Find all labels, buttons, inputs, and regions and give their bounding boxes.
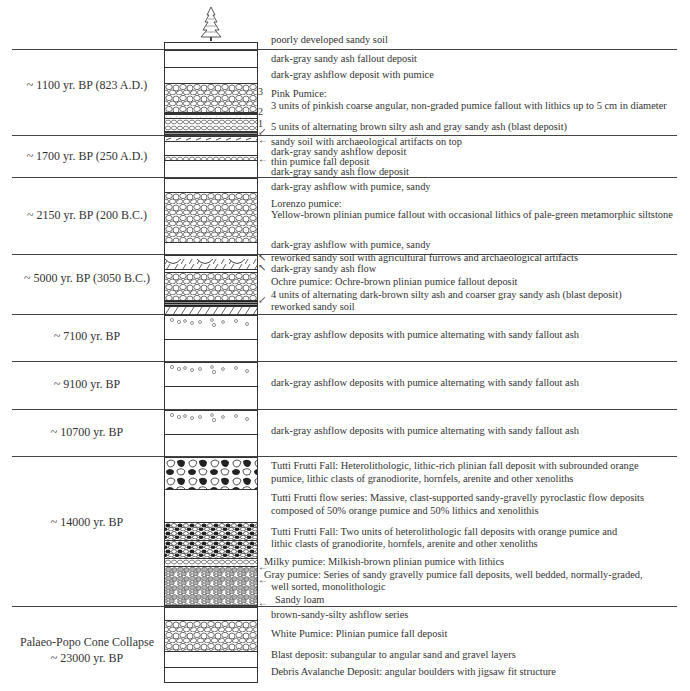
- arrow-icon: ↙: [258, 294, 266, 305]
- section-divider: [12, 49, 677, 50]
- age-label-1100: ~ 1100 yr. BP (823 A.D.): [12, 78, 162, 92]
- age-label-1700: ~ 1700 yr. BP (250 A.D.): [12, 149, 162, 163]
- layer-description: 4 units of alternating dark-brown silty …: [271, 289, 622, 301]
- layer-pink-pumice-1: [165, 118, 257, 131]
- layer-description: Sandy loam: [275, 594, 324, 606]
- layer-tutti-frutti-two-units-b: [165, 540, 257, 558]
- layer-description: Blast deposit: subangular to angular san…: [271, 649, 516, 661]
- layer-description: dark-gray sandy ash flow deposit: [271, 166, 409, 178]
- layer-sandy-fallout-10700: [165, 434, 257, 457]
- layer-tutti-frutti-two-units-a: [165, 522, 257, 540]
- layer-pink-pumice-3: [165, 83, 257, 112]
- arrow-icon: ←: [258, 597, 268, 608]
- layer-description: well sorted, monolithologic: [271, 581, 386, 593]
- arrow-icon: ←: [258, 134, 268, 145]
- layer-sandy-ash-flow: [165, 160, 257, 178]
- layer-description: Tutti Frutti Fall: Heterolithologic, lit…: [271, 460, 639, 472]
- layer-description: dark-gray sandy ash fallout deposit: [271, 53, 417, 65]
- layer-description: dark-gray ashflow deposits with pumice a…: [271, 425, 579, 437]
- layer-description: dark-gray ashflow with pumice, sandy: [271, 239, 431, 251]
- age-label-10700: ~ 10700 yr. BP: [12, 425, 162, 439]
- layer-description: Debris Avalanche Deposit: angular boulde…: [271, 666, 556, 678]
- layer-reworked-sandy-soil: [165, 306, 257, 315]
- layer-description: brown-sandy-silty ashflow series: [271, 609, 408, 621]
- layer-description: pumice, lithic clasts of granodiorite, h…: [271, 473, 573, 485]
- layer-gray-pumice: [165, 566, 257, 605]
- unit-marker-3: 3: [258, 86, 263, 97]
- layer-description: Tutti Frutti flow series: Massive, clast…: [271, 492, 644, 504]
- layer-sandy-fallout-7100: [165, 339, 257, 362]
- age-label-23000: ~ 23000 yr. BP: [12, 651, 162, 665]
- age-label-23000-title: Palaeo-Popo Cone Collapse: [12, 635, 162, 649]
- layer-reworked-soil-furrows: [165, 255, 257, 269]
- layer-debris-avalanche: [165, 667, 257, 682]
- layer-description: dark-gray ashflow deposit with pumice: [271, 69, 434, 81]
- layer-description: dark-gray sandy ash flow: [271, 263, 376, 275]
- layer-description: Milky pumice: Milkish-brown plinian pumi…: [264, 556, 504, 568]
- layer-tutti-frutti-flow: [165, 489, 257, 522]
- pine-tree-icon: [200, 6, 222, 42]
- age-label-14000: ~ 14000 yr. BP: [12, 515, 162, 529]
- layer-description: Pink Pumice:: [271, 88, 327, 100]
- layer-lorenzo-pumice: [165, 192, 257, 242]
- top-soil-label: poorly developed sandy soil: [271, 34, 388, 46]
- layer-description: lithic clasts of granodiorite, hornfels,…: [271, 538, 538, 550]
- arrow-icon: ←: [258, 153, 268, 164]
- layer-description: Gray pumice: Series of sandy gravelly pu…: [264, 569, 643, 581]
- layer-brown-sandy-silty-ashflow: [165, 607, 257, 620]
- layer-description: Tutti Frutti Fall: Two units of heteroli…: [271, 526, 617, 538]
- section-divider: [12, 314, 677, 315]
- layer-description: reworked sandy soil: [271, 301, 355, 313]
- layer-ashflow-pumice-7100: [165, 315, 257, 339]
- layer-sandy-fallout-9100: [165, 386, 257, 410]
- age-label-2150: ~ 2150 yr. BP (200 B.C.): [12, 208, 162, 222]
- layer-description: Yellow-brown plinian pumice fallout with…: [271, 209, 673, 221]
- age-label-7100: ~ 7100 yr. BP: [12, 329, 162, 343]
- layer-blast-deposit-23000: [165, 651, 257, 667]
- section-divider: [12, 409, 677, 410]
- layer-description: Ochre pumice: Ochre-brown plinian pumice…: [271, 276, 517, 288]
- layer-description: dark-gray ashflow with pumice, sandy: [271, 181, 431, 193]
- layer-ashflow-pumice-sandy-bottom: [165, 242, 257, 255]
- layer-sandy-ash-fallout: [165, 50, 257, 67]
- layer-ochre-pumice: [165, 272, 257, 300]
- stratigraphic-column: [164, 42, 258, 683]
- section-divider: [12, 606, 677, 607]
- layer-description: dark-gray ashflow deposits with pumice a…: [271, 377, 579, 389]
- layer-ashflow-pumice-sandy-top: [165, 178, 257, 192]
- layer-description: 5 units of alternating brown silty ash a…: [271, 121, 567, 133]
- unit-marker-2: 2: [258, 106, 263, 117]
- layer-description: dark-gray ashflow deposits with pumice a…: [271, 329, 579, 341]
- layer-milky-pumice: [165, 558, 257, 566]
- layer-description: White Pumice: Plinian pumice fall deposi…: [271, 628, 447, 640]
- layer-description: 3 units of pinkish coarse angular, non-g…: [271, 100, 667, 112]
- layer-description: composed of 50% orange pumice and 50% li…: [271, 505, 539, 517]
- section-divider: [12, 361, 677, 362]
- layer-tutti-frutti-fall: [165, 457, 257, 489]
- layer-sandy-ashflow: [165, 141, 257, 155]
- arrow-icon: ↖: [258, 262, 266, 273]
- layer-ashflow-pumice-10700: [165, 410, 257, 434]
- layer-white-pumice: [165, 620, 257, 651]
- section-divider: [12, 456, 677, 457]
- age-label-5000: ~ 5000 yr. BP (3050 B.C.): [12, 271, 162, 285]
- layer-ashflow-with-pumice: [165, 67, 257, 83]
- age-label-9100: ~ 9100 yr. BP: [12, 377, 162, 391]
- layer-ashflow-pumice-9100: [165, 362, 257, 386]
